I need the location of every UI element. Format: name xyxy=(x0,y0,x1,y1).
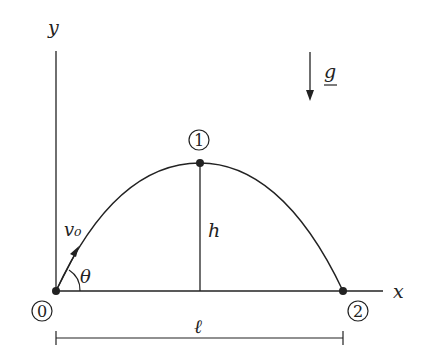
range-label: ℓ xyxy=(194,315,202,337)
arrow-down-icon xyxy=(306,90,314,101)
gravity-label: g xyxy=(324,60,336,82)
angle-label: θ xyxy=(80,266,91,287)
point-2 xyxy=(339,287,347,295)
height-label: h xyxy=(208,219,220,241)
angle-arc xyxy=(69,270,80,291)
arrow-up-right-icon xyxy=(70,246,79,257)
point-2-label: 2 xyxy=(353,302,363,321)
point-1 xyxy=(196,159,204,167)
x-axis-label: x xyxy=(393,280,404,302)
projectile-diagram: y x g h 0 1 2 v₀ θ ℓ xyxy=(0,0,426,362)
velocity-label: v₀ xyxy=(64,219,81,240)
point-0-label: 0 xyxy=(37,302,47,321)
y-axis-label: y xyxy=(47,16,59,38)
velocity-arrow xyxy=(56,252,76,291)
point-1-label: 1 xyxy=(194,131,204,150)
